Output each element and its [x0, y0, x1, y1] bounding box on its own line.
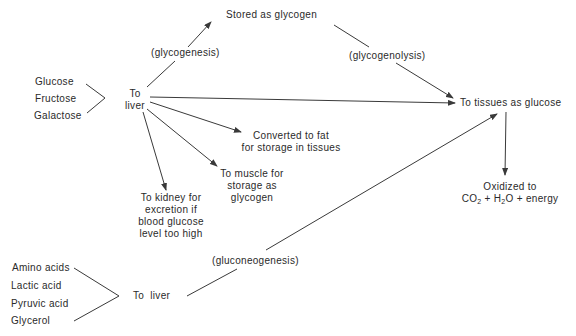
metabolism-diagram: Glucose Fructose Galactose To liver Stor… [0, 0, 576, 336]
arrow-to-muscle [147, 109, 217, 166]
kidney-line1: To kidney for [136, 192, 206, 204]
fat-line2: for storage in tissues [236, 142, 346, 154]
energy-text: + energy [514, 193, 559, 204]
arrow-to-fat [150, 102, 241, 132]
label-amino-acids: Amino acids [12, 262, 70, 274]
precursors-bracket [74, 268, 119, 321]
sugars-bracket [86, 84, 105, 113]
arrow-to-glycogen [188, 22, 211, 47]
muscle-line2: storage as [216, 180, 288, 192]
label-to-tissues: To tissues as glucose [460, 97, 561, 109]
label-oxidized: Oxidized to CO2 + H2O + energy [460, 181, 560, 208]
arrow-to-oxidized [505, 112, 506, 175]
label-to-liver-top: To liver [118, 88, 152, 112]
label-kidney: To kidney for excretion if blood glucose… [136, 192, 206, 240]
arrow-liver-to-tissues [150, 97, 455, 103]
kidney-line4: level too high [136, 228, 206, 240]
arrow-glycogenolysis-upper [334, 25, 369, 47]
arrow-layer [0, 0, 576, 336]
plus-text: + [482, 193, 494, 204]
muscle-line3: glycogen [216, 192, 288, 204]
oxidized-line1: Oxidized to [460, 181, 560, 193]
arrow-to-kidney [143, 112, 166, 190]
label-gluconeogenesis: (gluconeogenesis) [212, 255, 299, 267]
co-text: CO [462, 193, 478, 204]
label-stored-glycogen: Stored as glycogen [226, 9, 317, 21]
kidney-line2: excretion if [136, 204, 206, 216]
fat-line1: Converted to fat [236, 130, 346, 142]
liver-top-line1: To [118, 88, 152, 100]
liver-top-line2: liver [118, 100, 152, 112]
label-lactic-acid: Lactic acid [11, 280, 62, 292]
label-to-liver-bottom: To liver [133, 290, 170, 302]
label-glycerol: Glycerol [11, 315, 50, 327]
label-fructose: Fructose [35, 93, 76, 105]
o-text: O [506, 193, 514, 204]
label-glucose: Glucose [35, 76, 74, 88]
label-glycogenesis: (glycogenesis) [151, 47, 220, 59]
label-glycogenolysis: (glycogenolysis) [349, 50, 426, 62]
label-galactose: Galactose [34, 110, 82, 122]
kidney-line3: blood glucose [136, 216, 206, 228]
label-muscle: To muscle for storage as glycogen [216, 168, 288, 204]
arrow-to-tissues-from-glycogen [396, 63, 453, 98]
muscle-line1: To muscle for [216, 168, 288, 180]
arrow-gluconeogenesis-lower [187, 269, 237, 296]
arrow-glycogenesis-lower [147, 61, 175, 87]
label-fat: Converted to fat for storage in tissues [236, 130, 346, 154]
label-pyruvic-acid: Pyruvic acid [11, 298, 69, 310]
oxidized-formula: CO2 + H2O + energy [460, 193, 560, 208]
